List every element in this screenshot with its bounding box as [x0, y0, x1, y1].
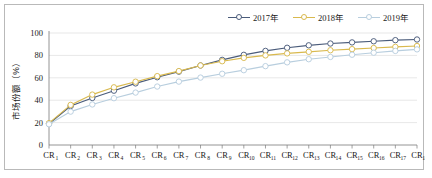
svg-text:CR: CR — [65, 150, 77, 160]
y-tick-label: 40 — [35, 95, 44, 105]
svg-text:CR: CR — [173, 150, 185, 160]
x-tick-label: CR16 — [368, 150, 385, 161]
data-point — [414, 47, 419, 52]
svg-text:CR: CR — [195, 150, 207, 160]
data-point — [263, 63, 268, 68]
data-point — [371, 39, 376, 44]
svg-text:CR: CR — [260, 150, 272, 160]
data-point — [328, 48, 333, 53]
data-point — [306, 49, 311, 54]
svg-text:18: 18 — [422, 155, 425, 161]
svg-text:12: 12 — [292, 155, 298, 161]
svg-text:17: 17 — [401, 155, 407, 161]
data-point — [133, 79, 138, 84]
svg-text:4: 4 — [121, 155, 124, 161]
x-tick-label: CR2 — [65, 150, 80, 161]
svg-text:2: 2 — [77, 155, 80, 161]
svg-text:CR: CR — [108, 150, 120, 160]
data-point — [241, 67, 246, 72]
x-tick-label: CR1 — [43, 150, 58, 161]
data-point — [198, 75, 203, 80]
data-point — [306, 57, 311, 62]
data-point — [349, 40, 354, 45]
x-tick-label: CR12 — [281, 150, 298, 161]
svg-text:11: 11 — [271, 155, 277, 161]
x-tick-labels: CR1CR2CR3CR4CR5CR6CR7CR8CR9CR10CR11CR12C… — [43, 150, 425, 161]
svg-text:CR: CR — [217, 150, 229, 160]
svg-text:15: 15 — [357, 155, 363, 161]
data-point — [176, 79, 181, 84]
svg-text:9: 9 — [229, 155, 232, 161]
data-point — [133, 90, 138, 95]
data-point — [393, 48, 398, 53]
data-point — [219, 71, 224, 76]
data-point — [328, 41, 333, 46]
svg-text:3: 3 — [99, 155, 102, 161]
x-tick-label: CR3 — [87, 150, 102, 161]
data-point — [198, 63, 203, 68]
data-point — [176, 68, 181, 73]
svg-text:10: 10 — [249, 155, 255, 161]
x-tick-label: CR6 — [152, 150, 167, 161]
data-point — [68, 109, 73, 114]
svg-text:6: 6 — [164, 155, 167, 161]
data-point — [155, 84, 160, 89]
data-point — [328, 54, 333, 59]
data-point — [284, 60, 289, 65]
x-tick-label: CR17 — [390, 150, 407, 161]
data-point — [90, 102, 95, 107]
data-point — [414, 37, 419, 42]
svg-text:5: 5 — [142, 155, 145, 161]
data-point — [371, 50, 376, 55]
chart-plot-area: 020406080100 CR1CR2CR3CR4CR5CR6CR7CR8CR9… — [5, 5, 423, 169]
x-tick-label: CR14 — [325, 150, 342, 161]
x-tick-label: CR13 — [303, 150, 320, 161]
y-axis-title-group: 市场份额（%） — [11, 58, 21, 120]
y-tick-label: 100 — [30, 28, 43, 38]
y-tick-label: 80 — [35, 50, 44, 60]
y-axis-title: 市场份额（%） — [11, 58, 21, 120]
data-point — [46, 122, 51, 127]
x-tick-label: CR7 — [173, 150, 188, 161]
x-tick-label: CR11 — [260, 150, 277, 161]
chart-figure: 2017年 2018年 2019年 020406080100 CR1CR2CR3… — [4, 4, 424, 170]
svg-text:CR: CR — [152, 150, 164, 160]
data-point — [306, 43, 311, 48]
data-point — [284, 51, 289, 56]
svg-text:13: 13 — [314, 155, 320, 161]
data-point — [349, 52, 354, 57]
x-tick-label: CR9 — [217, 150, 232, 161]
data-series-group — [46, 37, 419, 127]
data-point — [219, 59, 224, 64]
data-point — [241, 55, 246, 60]
data-point — [349, 46, 354, 51]
data-point — [111, 85, 116, 90]
svg-text:CR: CR — [43, 150, 55, 160]
data-point — [263, 53, 268, 58]
data-point — [155, 73, 160, 78]
series-line-2017年 — [49, 40, 417, 124]
data-point — [284, 45, 289, 50]
y-tick-labels: 020406080100 — [30, 28, 43, 150]
data-point — [90, 92, 95, 97]
data-point — [393, 37, 398, 42]
x-tick-label: CR8 — [195, 150, 210, 161]
data-point — [68, 102, 73, 107]
y-tick-label: 0 — [39, 140, 43, 150]
svg-text:CR: CR — [87, 150, 99, 160]
y-tick-label: 60 — [35, 73, 44, 83]
svg-text:1: 1 — [56, 155, 59, 161]
svg-text:7: 7 — [185, 155, 188, 161]
line-chart-svg: 020406080100 CR1CR2CR3CR4CR5CR6CR7CR8CR9… — [5, 5, 425, 171]
grid-lines — [49, 33, 417, 123]
svg-text:8: 8 — [207, 155, 210, 161]
x-tick-label: CR18 — [411, 150, 425, 161]
x-tick-label: CR5 — [130, 150, 145, 161]
y-tick-label: 20 — [35, 118, 44, 128]
data-point — [111, 95, 116, 100]
x-tick-label: CR15 — [346, 150, 363, 161]
svg-text:16: 16 — [379, 155, 385, 161]
svg-text:14: 14 — [336, 155, 342, 161]
svg-text:CR: CR — [130, 150, 142, 160]
x-tick-label: CR4 — [108, 150, 123, 161]
